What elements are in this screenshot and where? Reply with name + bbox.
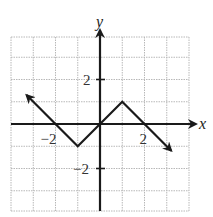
y-tick-label: −2: [73, 161, 89, 177]
x-tick-label: −2: [41, 131, 57, 147]
x-axis-label: x: [198, 115, 206, 132]
function-graph: xy−222−2: [0, 0, 213, 217]
x-tick-label: 2: [140, 131, 148, 147]
y-tick-label: 2: [83, 72, 91, 88]
tick-labels: xy−222−2: [41, 13, 207, 177]
y-axis-label: y: [94, 13, 104, 31]
